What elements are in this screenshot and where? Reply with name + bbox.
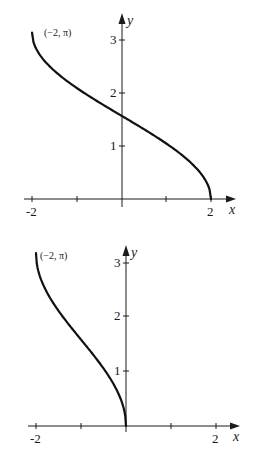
graph-2: -2 2 x y 1 2 3 (−2, π) bbox=[28, 245, 240, 446]
curve-arccos-x-plus-1 bbox=[36, 253, 126, 426]
y-axis-arrow-icon bbox=[119, 13, 126, 24]
x-tick-label: -2 bbox=[30, 431, 41, 446]
x-tick-label: -2 bbox=[26, 204, 37, 219]
y-tick-label: 3 bbox=[114, 255, 121, 270]
y-axis-label: y bbox=[125, 13, 134, 28]
y-tick-label: 2 bbox=[110, 85, 117, 100]
graph-1: -2 2 x y 1 2 3 (−2, π) bbox=[24, 13, 236, 219]
figure: -2 2 x y 1 2 3 (−2, π) -2 2 x y 1 2 3 (− bbox=[0, 0, 255, 461]
point-annotation: (−2, π) bbox=[40, 250, 67, 262]
point-annotation: (−2, π) bbox=[44, 27, 71, 39]
y-tick-label: 2 bbox=[114, 308, 121, 323]
y-tick-label: 1 bbox=[114, 363, 121, 378]
y-axis-arrow-icon bbox=[123, 245, 130, 256]
x-axis-label: x bbox=[228, 202, 236, 217]
x-axis-label: x bbox=[232, 429, 240, 444]
x-tick-label: 2 bbox=[212, 431, 219, 446]
y-tick-label: 1 bbox=[110, 138, 117, 153]
x-tick-label: 2 bbox=[207, 204, 214, 219]
y-tick-label: 3 bbox=[110, 32, 117, 47]
y-axis-label: y bbox=[129, 245, 138, 260]
